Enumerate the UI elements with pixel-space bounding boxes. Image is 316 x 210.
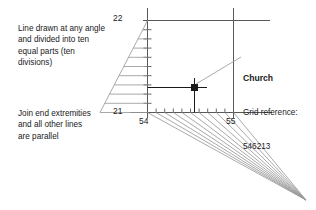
- axis-label-easting-54: 54: [139, 116, 148, 126]
- bottom-axis-ticks: [156, 109, 225, 113]
- church-callout-grid-reference-value: 546213: [243, 141, 313, 152]
- diagram-canvas: 22 21 54 55 Line drawn at any angle and …: [0, 0, 316, 210]
- church-callout: Church Grid reference: 546213: [243, 50, 313, 176]
- church-callout-title: Church: [243, 73, 313, 85]
- church-callout-grid-reference-label: Grid reference:: [243, 107, 313, 118]
- annotation-bottom-note: Join end extremities and all other lines…: [18, 108, 138, 142]
- axis-label-easting-55: 55: [226, 116, 235, 126]
- axis-label-northing-22: 22: [113, 13, 122, 23]
- church-marker-point[interactable]: [191, 84, 198, 91]
- annotation-top-note: Line drawn at any angle and divided into…: [18, 23, 138, 69]
- callout-leader-line: [196, 57, 241, 84]
